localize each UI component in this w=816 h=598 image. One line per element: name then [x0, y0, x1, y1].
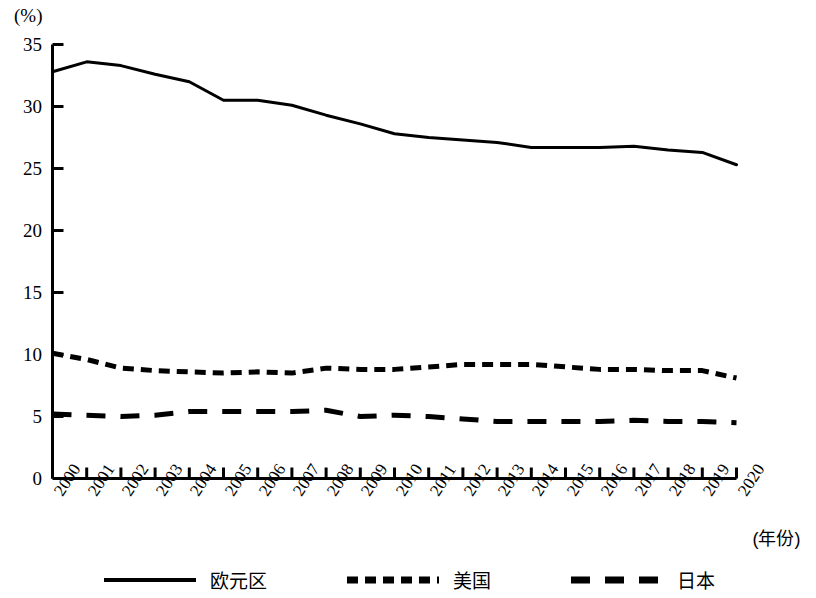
y-tick-label: 25	[8, 158, 42, 180]
legend-label: 日本	[677, 566, 715, 593]
y-tick-label: 0	[8, 468, 42, 490]
x-axis-title: (年份)	[753, 524, 801, 550]
chart-plot-area	[0, 0, 816, 598]
y-tick-label: 30	[8, 96, 42, 118]
y-tick-label: 5	[8, 406, 42, 428]
chart-legend: 欧元区美国日本	[0, 566, 816, 593]
data-series-group	[53, 62, 737, 423]
y-tick-label: 20	[8, 220, 42, 242]
y-axis-ticks	[53, 45, 64, 417]
y-tick-label: 10	[8, 344, 42, 366]
x-axis-ticks	[53, 468, 737, 479]
series-line-2	[53, 353, 737, 378]
legend-label: 欧元区	[210, 566, 267, 593]
legend-item[interactable]: 美国	[345, 566, 491, 593]
legend-item[interactable]: 欧元区	[102, 566, 267, 593]
legend-label: 美国	[453, 566, 491, 593]
y-tick-label: 15	[8, 282, 42, 304]
legend-item[interactable]: 日本	[569, 566, 715, 593]
fine-dashed-line-swatch	[345, 573, 441, 587]
series-line-1	[53, 62, 737, 165]
series-line-3	[53, 410, 737, 422]
solid-line-swatch	[102, 573, 198, 587]
chart-container: (%) 05101520253035 200020012002200320042…	[0, 0, 816, 598]
coarse-dashed-line-swatch	[569, 573, 665, 587]
y-tick-label: 35	[8, 34, 42, 56]
